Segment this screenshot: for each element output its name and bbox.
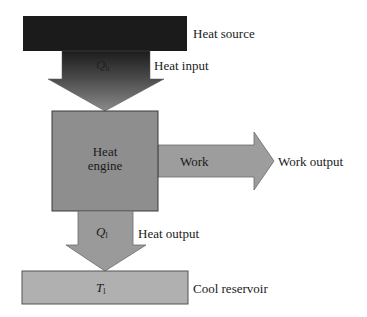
cool-reservoir-symbol: Tl xyxy=(96,281,105,297)
work-output-label: Work output xyxy=(278,155,343,168)
heat-output-label: Heat output xyxy=(138,227,199,240)
work-output-arrow xyxy=(158,132,274,190)
heat-engine-label-line1: Heat xyxy=(52,145,158,159)
cool-reservoir-label: Cool reservoir xyxy=(193,282,268,295)
heat-input-label: Heat input xyxy=(154,59,209,72)
heat-source-label: Heat source xyxy=(193,27,255,40)
heat-source-block xyxy=(23,16,187,51)
heat-input-symbol: Qh xyxy=(96,58,109,74)
heat-output-symbol: Ql xyxy=(96,225,108,241)
work-arrow-label: Work xyxy=(180,155,209,168)
heat-engine-label: Heat engine xyxy=(52,145,158,174)
heat-engine-label-line2: engine xyxy=(52,159,158,173)
heat-output-arrow xyxy=(66,211,146,271)
